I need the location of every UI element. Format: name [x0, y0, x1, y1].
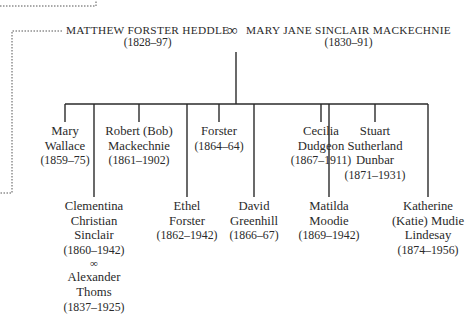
child-dates: (1859–75) — [40, 153, 89, 168]
child-name-line: Sutherland — [345, 139, 406, 154]
child-dates: (1871–1931) — [345, 168, 406, 183]
child-name-line: Mackechnie — [105, 139, 172, 154]
spouse-marriage-symbol: ∞ — [64, 257, 125, 270]
child-name-line: Lindesay — [392, 228, 464, 243]
child-dates: (1861–1902) — [105, 153, 172, 168]
child-name-line: Mary — [40, 124, 89, 139]
child-name-line: Forster — [157, 214, 218, 229]
child-name-line: Cecilia — [291, 124, 352, 139]
child-name-line: Greenhill — [229, 214, 278, 229]
child-dates: (1862–1942) — [157, 228, 218, 243]
mother-name: MARY JANE SINCLAIR MACKECHNIE — [246, 24, 451, 36]
child-forster: Forster (1864–64) — [194, 124, 243, 153]
child-name-line: David — [229, 199, 278, 214]
child-name-line: Christian — [64, 214, 125, 229]
marriage-symbol: ∞ — [227, 22, 238, 39]
child-cecilia: Cecilia Dudgeon (1867–1911) — [291, 124, 352, 168]
child-name-line: Stuart — [345, 124, 406, 139]
child-dates: (1867–1911) — [291, 153, 352, 168]
child-name-line: Clementina — [64, 199, 125, 214]
child-dates: (1860–1942) — [64, 243, 125, 258]
spouse-name-line: Alexander — [64, 270, 125, 285]
child-dates: (1869–1942) — [299, 228, 360, 243]
child-name-line: Forster — [194, 124, 243, 139]
child-katherine: Katherine (Katie) Mudie Lindesay (1874–1… — [392, 199, 464, 257]
child-david: David Greenhill (1866–67) — [229, 199, 278, 243]
child-dates: (1874–1956) — [392, 243, 464, 258]
child-matilda: Matilda Moodie (1869–1942) — [299, 199, 360, 243]
father-name: MATTHEW FORSTER HEDDLE — [66, 24, 229, 36]
spouse-dates: (1837–1925) — [64, 300, 125, 314]
child-name-line: Dudgeon — [291, 139, 352, 154]
child-name-line: Sinclair — [64, 228, 125, 243]
child-name-line: Robert (Bob) — [105, 124, 172, 139]
child-name-line: Ethel — [157, 199, 218, 214]
child-name-line: (Katie) Mudie — [392, 214, 464, 229]
mother-dates: (1830–91) — [246, 36, 451, 48]
child-dates: (1866–67) — [229, 228, 278, 243]
child-ethel: Ethel Forster (1862–1942) — [157, 199, 218, 243]
child-stuart: Stuart Sutherland Dunbar (1871–1931) — [345, 124, 406, 182]
child-name-line: Dunbar — [345, 153, 406, 168]
child-clementina: Clementina Christian Sinclair (1860–1942… — [64, 199, 125, 314]
father-node: MATTHEW FORSTER HEDDLE (1828–97) — [66, 24, 229, 48]
child-mary: Mary Wallace (1859–75) — [40, 124, 89, 168]
mother-node: MARY JANE SINCLAIR MACKECHNIE (1830–91) — [246, 24, 451, 48]
child-name-line: Moodie — [299, 214, 360, 229]
child-name-line: Wallace — [40, 139, 89, 154]
spouse-name-line: Thoms — [64, 285, 125, 300]
child-name-line: Katherine — [392, 199, 464, 214]
father-dates: (1828–97) — [66, 36, 229, 48]
child-robert: Robert (Bob) Mackechnie (1861–1902) — [105, 124, 172, 168]
child-name-line: Matilda — [299, 199, 360, 214]
child-dates: (1864–64) — [194, 139, 243, 154]
